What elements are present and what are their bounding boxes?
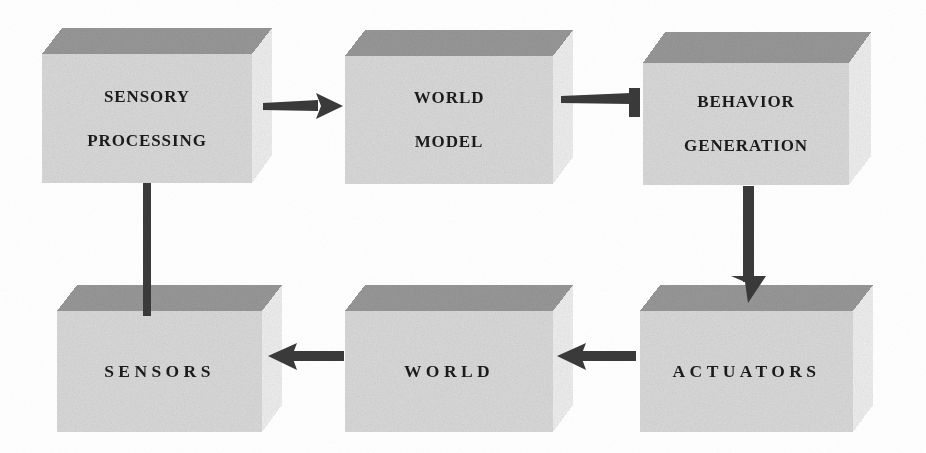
diagram-canvas: SENSORY PROCESSING WORLD MODEL BEHAVIOR … (0, 0, 926, 453)
arrow-world-to-sensors[interactable] (268, 343, 344, 370)
arrow-shaft (561, 93, 631, 104)
connector-sensory-processing-to-sensors[interactable] (143, 183, 151, 316)
arrow-behavior-generation-to-actuators[interactable] (731, 186, 766, 303)
arrow-head-down-icon (731, 276, 766, 303)
arrow-sensory-processing-to-world-model[interactable] (263, 93, 343, 119)
arrow-shaft (743, 186, 754, 282)
arrow-head-bar-icon (629, 88, 640, 117)
arrow-actuators-to-world[interactable] (557, 343, 636, 370)
arrow-shaft (263, 100, 318, 111)
connector-line (143, 183, 151, 316)
arrow-world-model-to-behavior-generation[interactable] (561, 88, 640, 117)
connectors-layer (0, 0, 926, 453)
arrow-head-right-icon (316, 93, 343, 119)
arrow-shaft (581, 351, 636, 361)
arrow-shaft (292, 351, 344, 361)
